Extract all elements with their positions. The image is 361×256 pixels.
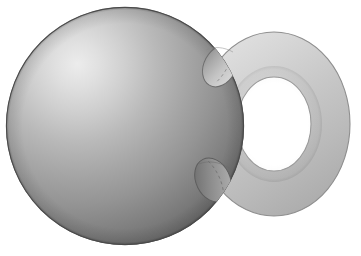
sphere: [6, 7, 244, 245]
sphere-rim-shading: [6, 7, 244, 245]
figure-canvas: Sphere with attached ring handle Graysca…: [0, 0, 361, 256]
sphere-with-ring-figure: [0, 0, 361, 256]
